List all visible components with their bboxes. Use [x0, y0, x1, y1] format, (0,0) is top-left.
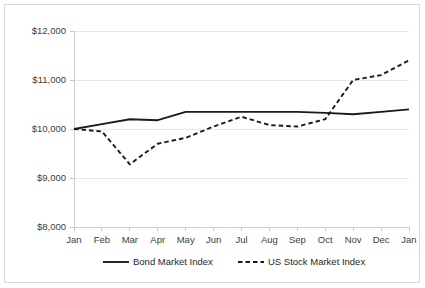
x-axis-tick-label: Aug — [261, 234, 278, 245]
y-axis-tick-label: $12,000 — [32, 25, 66, 36]
x-axis-tick-label: Nov — [345, 234, 362, 245]
chart-legend: Bond Market IndexUS Stock Market Index — [103, 256, 365, 267]
x-axis-tick-label: Oct — [318, 234, 333, 245]
data-series-group — [74, 60, 409, 164]
x-axis-tick-label: Jan — [66, 234, 81, 245]
x-axis-tick-label: Jan — [401, 234, 416, 245]
y-axis-tick-label: $11,000 — [32, 74, 66, 85]
chart-container: $12,000$11,000$10,000$9,000$8,000 JanFeb… — [4, 4, 420, 283]
x-axis-tick-label: Dec — [373, 234, 390, 245]
y-axis-labels: $12,000$11,000$10,000$9,000$8,000 — [32, 25, 66, 232]
x-axis-tick-label: Jul — [235, 234, 247, 245]
legend-label-2: US Stock Market Index — [268, 256, 365, 267]
series-line-1 — [74, 109, 409, 129]
x-axis-tick-label: Mar — [122, 234, 138, 245]
y-axis-tick-label: $8,000 — [37, 221, 66, 232]
x-axis-labels: JanFebMarAprMayJunJulAugSepOctNovDecJan — [66, 234, 416, 245]
y-axis-tick-label: $10,000 — [32, 123, 66, 134]
x-axis-tick-label: Apr — [150, 234, 165, 245]
x-axis-tick-label: Sep — [289, 234, 306, 245]
gridlines-group — [74, 31, 409, 227]
legend-label-1: Bond Market Index — [133, 256, 213, 267]
line-chart: $12,000$11,000$10,000$9,000$8,000 JanFeb… — [5, 5, 419, 282]
y-axis-tick-label: $9,000 — [37, 172, 66, 183]
x-axis-tick-label: Jun — [206, 234, 221, 245]
x-axis-tick-label: May — [177, 234, 195, 245]
x-axis-tick-label: Feb — [94, 234, 110, 245]
tickmarks-group — [70, 31, 409, 231]
